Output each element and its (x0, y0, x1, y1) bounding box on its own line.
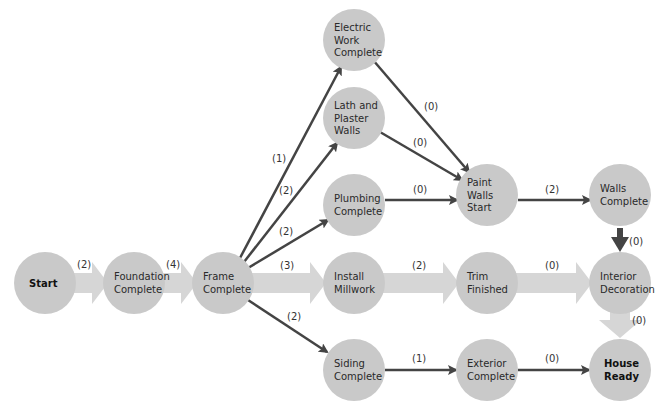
node-label: Complete (334, 371, 382, 382)
node-siding: SidingComplete (323, 339, 385, 401)
node-label: Walls (467, 190, 493, 201)
label-interior-house: (0) (632, 315, 646, 326)
node-foundation: FoundationComplete (103, 252, 170, 314)
label-frame-siding: (2) (287, 311, 301, 322)
house-construction-network-diagram: StartFoundationCompleteFrameCompleteElec… (0, 0, 659, 408)
node-lath: Lath andPlasterWalls (323, 87, 385, 149)
node-label: Lath and (334, 100, 378, 111)
node-label: Interior (600, 271, 637, 282)
node-electric: ElectricWorkComplete (323, 9, 385, 71)
label-frame-lath: (2) (279, 185, 293, 196)
node-label: Paint (467, 177, 492, 188)
label-foundation-frame: (4) (166, 259, 180, 270)
node-label: Trim (466, 271, 488, 282)
node-house: HouseReady (589, 339, 651, 401)
node-label: Exterior (467, 358, 507, 369)
node-label: Finished (467, 284, 508, 295)
node-trim: TrimFinished (456, 252, 518, 314)
label-electric-paint: (0) (424, 101, 438, 112)
label-start-foundation: (2) (77, 259, 91, 270)
node-plumbing: PlumbingComplete (323, 174, 385, 236)
node-label: Walls (334, 125, 360, 136)
node-label: Walls (600, 183, 626, 194)
label-frame-millwork: (3) (280, 260, 294, 271)
arrow-walls-interior (611, 228, 629, 252)
node-millwork: InstallMillwork (323, 252, 385, 314)
node-label: Plaster (334, 113, 369, 124)
node-label: Start (29, 278, 58, 289)
node-label: Work (334, 35, 360, 46)
node-label: Complete (334, 47, 382, 58)
label-paint-walls: (2) (545, 184, 559, 195)
label-lath-paint: (0) (413, 137, 427, 148)
node-label: Install (334, 271, 364, 282)
node-label: Foundation (114, 271, 170, 282)
node-label: House (604, 358, 639, 369)
label-frame-plumbing: (2) (279, 226, 293, 237)
node-label: Complete (334, 206, 382, 217)
thin-arrows (240, 60, 590, 370)
label-millwork-trim: (2) (412, 260, 426, 271)
label-siding-exterior: (1) (412, 353, 426, 364)
node-walls: WallsComplete (589, 164, 651, 226)
node-label: Start (467, 202, 492, 213)
label-exterior-house: (0) (545, 353, 559, 364)
node-frame: FrameComplete (192, 252, 254, 314)
nodes: StartFoundationCompleteFrameCompleteElec… (14, 9, 655, 401)
node-label: Complete (114, 284, 162, 295)
label-plumbing-paint: (0) (413, 184, 427, 195)
node-label: Complete (600, 196, 648, 207)
label-frame-electric: (1) (272, 153, 286, 164)
arrow-frame-siding (248, 300, 327, 352)
node-label: Ready (604, 371, 639, 382)
node-paint: PaintWallsStart (456, 164, 518, 226)
node-label: Complete (203, 284, 251, 295)
node-start: Start (14, 252, 76, 314)
node-label: Millwork (334, 284, 375, 295)
label-trim-interior: (0) (545, 260, 559, 271)
node-label: Electric (334, 22, 371, 33)
node-exterior: ExteriorComplete (456, 339, 518, 401)
node-label: Siding (334, 358, 365, 369)
label-walls-interior: (0) (629, 236, 643, 247)
node-label: Complete (467, 371, 515, 382)
node-label: Frame (203, 271, 234, 282)
node-label: Decoration (600, 284, 655, 295)
node-label: Plumbing (334, 193, 381, 204)
node-interior: InteriorDecoration (589, 252, 655, 314)
